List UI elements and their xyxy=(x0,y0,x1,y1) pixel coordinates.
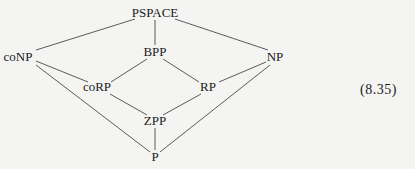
edge-corp-zpp xyxy=(110,94,147,115)
edge-np-rp xyxy=(219,62,266,82)
edge-pspace-np xyxy=(175,19,268,50)
edge-bpp-corp xyxy=(111,59,147,82)
node-rp: RP xyxy=(200,80,216,94)
node-p: P xyxy=(151,150,158,164)
node-pspace: PSPACE xyxy=(132,6,179,20)
edge-rp-zpp xyxy=(163,94,201,115)
edge-pspace-conp xyxy=(36,19,135,50)
node-bpp: BPP xyxy=(143,45,166,59)
node-np: NP xyxy=(267,50,284,64)
equation-number: (8.35) xyxy=(360,82,397,98)
node-zpp: ZPP xyxy=(144,114,166,128)
node-corp: coRP xyxy=(83,80,111,94)
edge-bpp-rp xyxy=(163,59,199,82)
node-conp: coNP xyxy=(4,50,33,64)
